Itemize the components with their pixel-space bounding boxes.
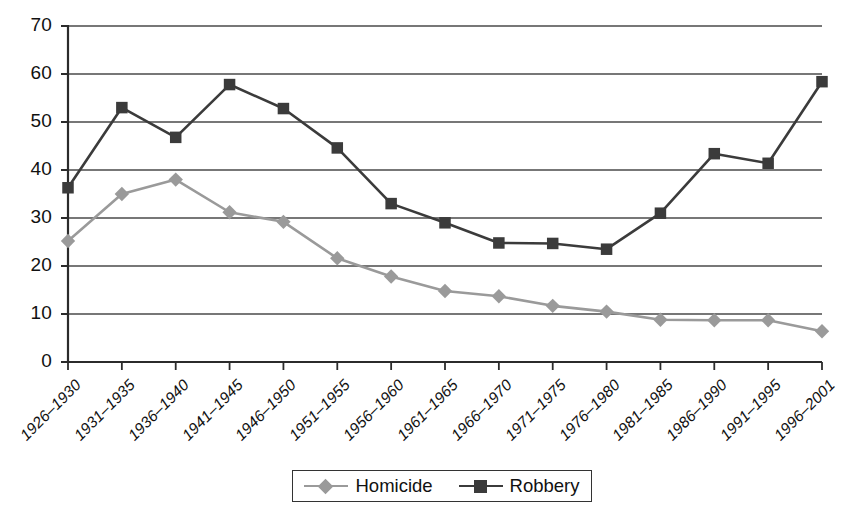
data-point-homicide-13	[761, 313, 775, 327]
data-point-robbery-12	[709, 148, 721, 160]
y-tick-label: 60	[8, 62, 52, 84]
y-tick-label: 30	[8, 206, 52, 228]
data-point-robbery-7	[439, 217, 451, 229]
data-point-robbery-8	[493, 237, 505, 249]
data-point-robbery-11	[655, 207, 667, 219]
data-point-robbery-10	[601, 243, 613, 255]
data-point-robbery-3	[224, 79, 236, 91]
data-point-homicide-14	[815, 324, 829, 338]
data-point-robbery-2	[170, 132, 182, 144]
y-tick-label: 70	[8, 14, 52, 36]
data-point-robbery-14	[816, 76, 828, 88]
legend-swatch-homicide	[304, 479, 348, 493]
y-tick-label: 20	[8, 254, 52, 276]
data-point-homicide-5	[330, 251, 344, 265]
data-point-homicide-10	[599, 304, 613, 318]
data-point-homicide-3	[222, 205, 236, 219]
data-point-robbery-5	[332, 142, 344, 154]
data-point-homicide-8	[492, 289, 506, 303]
data-point-robbery-4	[278, 103, 290, 115]
y-tick-label: 50	[8, 110, 52, 132]
data-point-homicide-2	[169, 172, 183, 186]
data-point-homicide-11	[653, 313, 667, 327]
square-marker-icon	[474, 480, 487, 493]
data-point-robbery-6	[385, 198, 397, 210]
chart-legend: HomicideRobbery	[292, 470, 592, 502]
legend-swatch-robbery	[459, 479, 503, 493]
legend-item-robbery: Robbery	[459, 475, 580, 497]
data-point-homicide-7	[438, 284, 452, 298]
legend-item-homicide: Homicide	[304, 475, 432, 497]
series-line-homicide	[68, 180, 822, 332]
data-point-robbery-9	[547, 238, 559, 250]
data-point-homicide-12	[707, 313, 721, 327]
legend-label: Robbery	[510, 475, 580, 497]
data-point-homicide-4	[276, 215, 290, 229]
data-point-robbery-0	[62, 182, 74, 194]
data-point-homicide-9	[546, 299, 560, 313]
y-tick-label: 40	[8, 158, 52, 180]
y-tick-label: 10	[8, 302, 52, 324]
data-point-robbery-13	[762, 158, 774, 170]
diamond-marker-icon	[318, 479, 334, 495]
data-point-homicide-6	[384, 269, 398, 283]
legend-label: Homicide	[355, 475, 432, 497]
y-tick-label: 0	[8, 350, 52, 372]
line-chart: 010203040506070 1926–19301931–19351936–1…	[0, 0, 843, 516]
data-point-robbery-1	[116, 102, 128, 114]
